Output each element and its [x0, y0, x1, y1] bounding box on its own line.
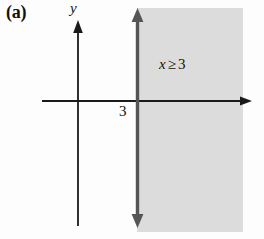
- inequality-value: 3: [178, 56, 186, 72]
- y-axis-label: y: [70, 0, 77, 17]
- part-label: (a): [6, 2, 26, 23]
- inequality-graph-figure: (a) y 3 x≥3: [0, 0, 264, 239]
- inequality-annotation: x≥3: [159, 56, 185, 73]
- axes-and-boundary-graphic: [0, 0, 264, 239]
- y-axis-arrowhead: [73, 20, 83, 33]
- inequality-relation: ≥: [166, 56, 178, 72]
- x-axis-arrowhead: [240, 97, 252, 106]
- y-axis: [73, 20, 83, 226]
- boundary-line-x-equals-3: [132, 8, 144, 228]
- boundary-line-up-arrowhead: [132, 8, 144, 22]
- inequality-variable: x: [159, 56, 166, 72]
- x-axis: [42, 97, 252, 106]
- x-tick-label-3: 3: [119, 103, 127, 120]
- boundary-line-down-arrowhead: [132, 214, 144, 228]
